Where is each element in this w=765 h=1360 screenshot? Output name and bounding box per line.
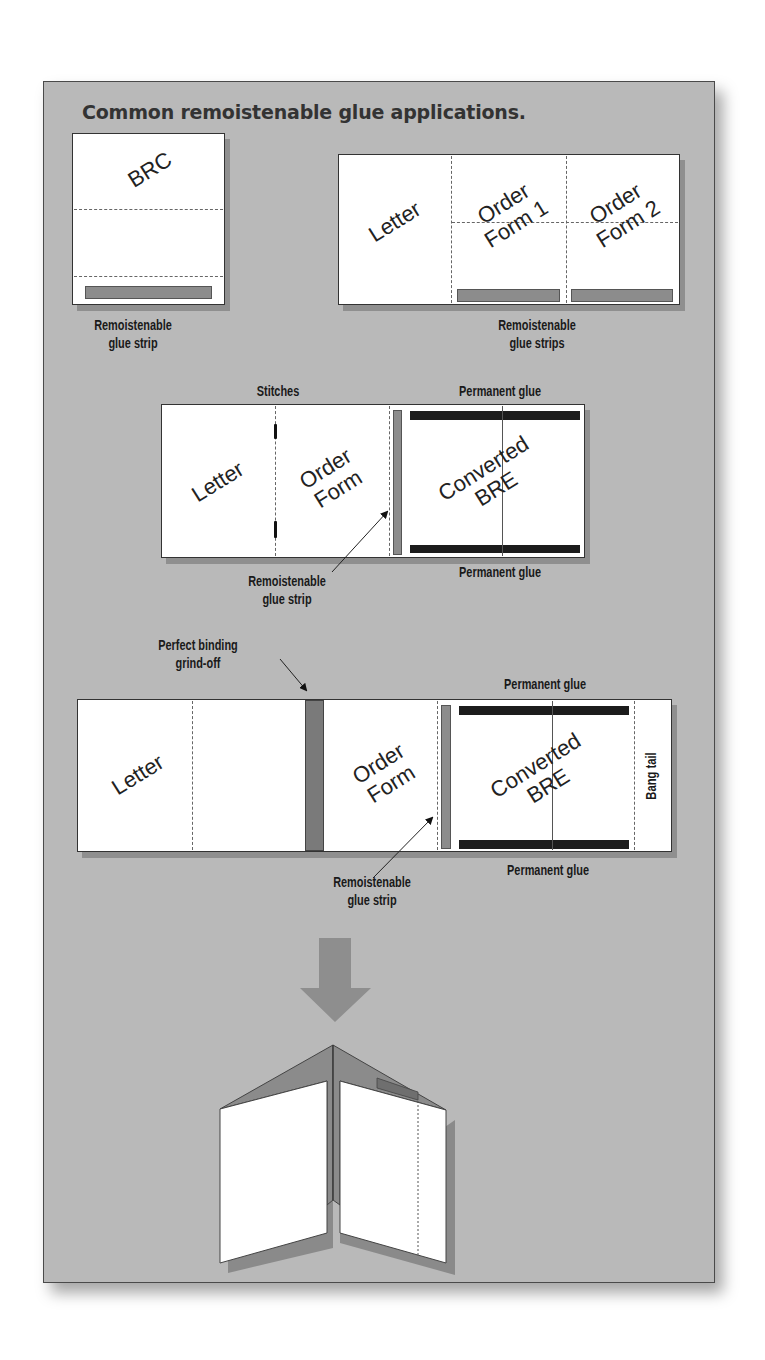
remoistenable-glue-strip <box>85 286 212 299</box>
perforation-line <box>74 276 223 277</box>
caption-line: glue strip <box>78 334 187 352</box>
permanent-glue-bar <box>410 411 580 420</box>
permanent-glue-bar <box>459 706 629 715</box>
permanent-glue-top-label: Permanent glue <box>438 382 563 400</box>
permanent-glue-bottom-label: Permanent glue <box>438 563 563 581</box>
stitched-caption: Remoistenable glue strip <box>232 572 341 608</box>
perforation-line <box>389 406 390 556</box>
perforation-line <box>634 701 635 850</box>
caption-line: Remoistenable <box>317 873 426 891</box>
perforation-line <box>74 209 223 210</box>
caption-line: glue strips <box>482 334 591 352</box>
stitches-label: Stitches <box>239 382 317 400</box>
permanent-glue-bottom-label: Permanent glue <box>486 861 611 879</box>
permanent-glue-bar <box>459 840 629 849</box>
perforation-line <box>451 156 452 303</box>
remoistenable-glue-strip <box>441 705 451 849</box>
perforation-line <box>192 701 193 850</box>
caption-line: glue strip <box>232 590 341 608</box>
brc-caption: Remoistenable glue strip <box>78 316 187 352</box>
caption-line: glue strip <box>317 891 426 909</box>
grind-off-band <box>305 700 324 851</box>
perforation-line <box>566 156 567 303</box>
order-forms-caption: Remoistenable glue strips <box>482 316 591 352</box>
caption-line: Remoistenable <box>482 316 591 334</box>
label-line: Perfect binding <box>143 636 252 654</box>
grind-off-label: Perfect binding grind-off <box>143 636 252 672</box>
bang-tail-label: Bang tail <box>643 751 659 801</box>
remoistenable-glue-strip <box>571 289 673 302</box>
perforation-line <box>437 701 438 850</box>
figure-title: Common remoistenable glue applications. <box>82 101 526 123</box>
permanent-glue-bar <box>410 545 580 553</box>
stitch-mark <box>274 424 277 439</box>
caption-line: Remoistenable <box>232 572 341 590</box>
permanent-glue-top-label: Permanent glue <box>483 675 608 693</box>
remoistenable-glue-strip <box>457 289 560 302</box>
stitch-mark <box>274 521 277 538</box>
label-line: grind-off <box>143 654 252 672</box>
caption-line: Remoistenable <box>78 316 187 334</box>
remoistenable-glue-strip <box>393 410 402 555</box>
perfect-bound-caption: Remoistenable glue strip <box>317 873 426 909</box>
